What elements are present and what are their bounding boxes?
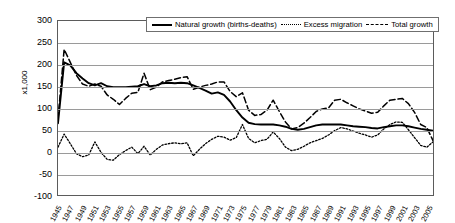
y-tick-label: 50 — [18, 126, 52, 134]
series-line — [58, 49, 433, 140]
legend-item-natural-growth: Natural growth (births-deaths) — [152, 20, 277, 29]
y-tick-label: 300 — [18, 16, 52, 24]
gridline — [58, 87, 433, 88]
dashed-line-swatch-icon — [366, 21, 388, 28]
gridline — [58, 175, 433, 176]
legend-item-excess-migration: Excess migration — [281, 20, 363, 29]
series-line — [58, 62, 433, 130]
legend-label-natural-growth: Natural growth (births-deaths) — [175, 20, 277, 29]
data-lines-layer — [58, 21, 433, 195]
y-tick-label: -100 — [18, 192, 52, 200]
zero-line — [58, 153, 433, 154]
legend-label-excess-migration: Excess migration — [304, 20, 363, 29]
x-tick-label: 2005 — [420, 205, 435, 223]
gridline — [58, 65, 433, 66]
population-growth-chart: x1,000 300250200150100500-50-100 1945194… — [0, 0, 455, 223]
x-axis-tick-labels: 1945194719491951195319551957195919611963… — [57, 196, 434, 223]
y-axis-tick-labels: 300250200150100500-50-100 — [12, 0, 52, 223]
plot-area — [57, 20, 434, 196]
gridline — [58, 43, 433, 44]
y-tick-label: 0 — [18, 148, 52, 156]
y-tick-label: 200 — [18, 60, 52, 68]
y-tick-label: -50 — [18, 170, 52, 178]
dotted-line-swatch-icon — [281, 21, 301, 28]
solid-line-swatch-icon — [152, 21, 172, 28]
gridline — [58, 109, 433, 110]
chart-legend: Natural growth (births-deaths) Excess mi… — [146, 17, 439, 32]
gridline — [58, 131, 433, 132]
y-tick-label: 150 — [18, 82, 52, 90]
legend-item-total-growth: Total growth — [366, 20, 432, 29]
legend-label-total-growth: Total growth — [391, 20, 432, 29]
y-tick-label: 100 — [18, 104, 52, 112]
y-tick-label: 250 — [18, 38, 52, 46]
